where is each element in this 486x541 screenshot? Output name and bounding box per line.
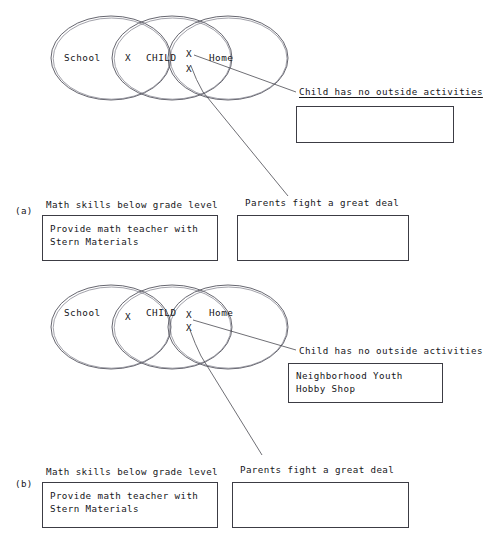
- annotation-parents-fight-box[interactable]: [237, 215, 409, 261]
- annotation-math-skills-caption: Math skills below grade level: [46, 199, 218, 210]
- panel-label-a: (a): [15, 205, 33, 216]
- home-circle-label: Home: [209, 307, 233, 318]
- annotation-parents-fight-caption: Parents fight a great deal: [245, 197, 399, 208]
- school-circle-label: School: [64, 307, 101, 318]
- child-circle: [112, 285, 232, 369]
- child-circle-label: CHILD: [146, 307, 177, 318]
- panel-b-venn-and-leaders: [0, 0, 486, 541]
- panel-label-b: (b): [15, 478, 33, 489]
- school-circle: [51, 285, 171, 369]
- leader-parents-fight: [190, 330, 262, 455]
- annotation-outside-activities-box[interactable]: [296, 106, 454, 143]
- x-mark-child-home-upper: X: [186, 48, 192, 59]
- x-mark-school-child: X: [125, 311, 131, 322]
- school-circle-label: School: [64, 52, 101, 63]
- panel-a-venn-and-leaders: [0, 0, 486, 541]
- x-mark-child-home-lower: X: [186, 63, 192, 74]
- leader-parents-fight: [191, 66, 288, 196]
- school-circle-trace: [53, 287, 170, 368]
- home-circle-label: Home: [209, 52, 233, 63]
- annotation-math-skills-caption: Math skills below grade level: [46, 466, 218, 477]
- x-mark-child-home-upper: X: [186, 309, 192, 320]
- x-mark-child-home-lower: X: [186, 322, 192, 333]
- annotation-outside-activities-box-text: Neighborhood Youth Hobby Shop: [296, 370, 403, 395]
- child-circle-trace: [114, 287, 231, 368]
- annotation-outside-activities-caption: Child has no outside activities: [299, 86, 483, 97]
- annotation-parents-fight-box[interactable]: [232, 482, 409, 528]
- figure-root: School CHILD Home X X X Child has no out…: [0, 0, 486, 541]
- child-circle-label: CHILD: [146, 52, 177, 63]
- annotation-math-skills-box-text: Provide math teacher with Stern Material…: [50, 490, 198, 515]
- annotation-parents-fight-caption: Parents fight a great deal: [240, 464, 394, 475]
- x-mark-school-child: X: [125, 52, 131, 63]
- annotation-outside-activities-caption: Child has no outside activities: [299, 345, 483, 356]
- annotation-math-skills-box-text: Provide math teacher with Stern Material…: [50, 223, 198, 248]
- leader-outside-activities: [193, 320, 296, 350]
